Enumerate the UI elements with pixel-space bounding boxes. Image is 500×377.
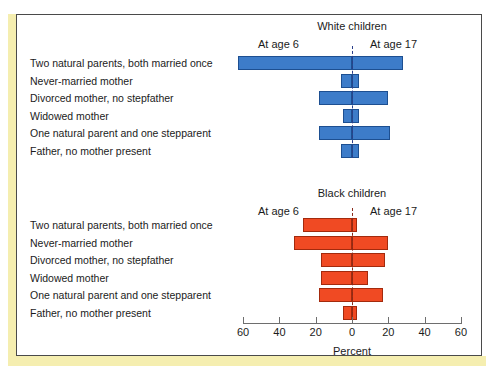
bar-age17 [352, 271, 368, 285]
bar-age6 [341, 144, 352, 158]
figure-root: White children At age 6 At age 17 Two na… [0, 0, 500, 377]
bar-age6 [341, 74, 352, 88]
axis-tick [352, 317, 353, 324]
axis-tick [425, 317, 426, 324]
bar-age17 [352, 91, 388, 105]
panel-white-children: White children At age 6 At age 17 Two na… [0, 0, 500, 175]
axis-tick [279, 317, 280, 324]
axis-tick-label: 40 [410, 326, 440, 338]
bar-age17 [352, 236, 388, 250]
axis-tick-label: 40 [264, 326, 294, 338]
plot-area-white [0, 0, 500, 175]
bar-age6 [294, 236, 352, 250]
bar-age6 [319, 126, 352, 140]
axis-title: Percent [292, 345, 412, 357]
x-axis: 6040200204060 [0, 175, 500, 235]
bar-age17 [352, 144, 359, 158]
axis-tick [243, 317, 244, 324]
bar-age17 [352, 126, 390, 140]
bar-age17 [352, 74, 359, 88]
axis-tick-label: 20 [373, 326, 403, 338]
axis-tick [461, 317, 462, 324]
bar-age6 [238, 56, 352, 70]
bar-age6 [319, 288, 352, 302]
bar-age6 [319, 91, 352, 105]
bar-age17 [352, 56, 403, 70]
bar-age6 [343, 109, 352, 123]
bar-age17 [352, 109, 359, 123]
axis-tick [388, 317, 389, 324]
bar-age6 [321, 253, 352, 267]
axis-tick-label: 20 [301, 326, 331, 338]
zero-reference-line [352, 46, 353, 158]
panel-black-children: Black children At age 6 At age 17 Two na… [0, 175, 500, 377]
bar-age17 [352, 288, 383, 302]
bar-age6 [321, 271, 352, 285]
axis-tick-label: 60 [446, 326, 476, 338]
bar-age6 [343, 306, 352, 320]
axis-tick-label: 60 [228, 326, 258, 338]
axis-tick-label: 0 [337, 326, 367, 338]
axis-tick [316, 317, 317, 324]
bar-age17 [352, 253, 385, 267]
